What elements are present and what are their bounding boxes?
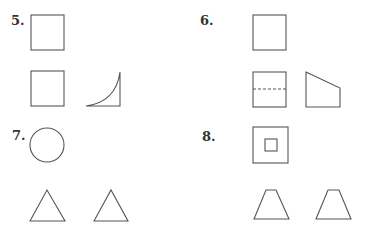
p5-top-view-square bbox=[31, 15, 64, 50]
p5-side-view-curve bbox=[86, 72, 120, 106]
figures-canvas bbox=[0, 0, 368, 240]
problem-8-figures bbox=[253, 127, 351, 219]
p8-top-view-inner-square bbox=[265, 139, 277, 151]
p6-side-view-trapezoid bbox=[306, 72, 340, 107]
p7-front-view-triangle bbox=[30, 190, 65, 221]
p8-front-view-trapezoid bbox=[254, 190, 289, 219]
p8-top-view-outer-square bbox=[253, 127, 288, 163]
p7-top-view-circle bbox=[30, 128, 64, 162]
p6-top-view-square bbox=[253, 15, 286, 50]
problem-6-figures bbox=[253, 15, 340, 107]
p5-front-view-square bbox=[31, 71, 64, 106]
problem-5-figures bbox=[31, 15, 120, 106]
problem-7-figures bbox=[30, 128, 128, 221]
p7-side-view-triangle bbox=[94, 190, 128, 221]
p8-side-view-trapezoid bbox=[316, 190, 351, 219]
